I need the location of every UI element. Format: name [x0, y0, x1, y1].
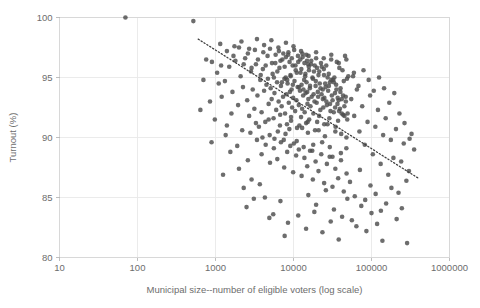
data-point [254, 121, 259, 126]
data-point [255, 37, 260, 42]
data-point [270, 61, 275, 66]
data-point [223, 133, 228, 138]
data-point [316, 128, 321, 133]
data-point [268, 46, 273, 51]
data-point [269, 97, 274, 102]
data-point [354, 224, 359, 229]
data-point [306, 62, 311, 67]
gridlines [60, 18, 450, 258]
data-point [344, 99, 349, 104]
data-point [301, 87, 306, 92]
data-point [312, 69, 317, 74]
data-point [289, 56, 294, 61]
data-point [232, 44, 237, 49]
data-points [123, 15, 416, 245]
data-point [276, 45, 281, 50]
data-point [291, 170, 296, 175]
data-point [401, 141, 406, 146]
data-point [334, 87, 339, 92]
data-point [346, 74, 351, 79]
x-axis-tick-labels: 101001000100001000001000000 [54, 262, 468, 273]
data-point [313, 79, 318, 84]
data-point [257, 124, 262, 129]
data-point [269, 38, 274, 43]
data-point [379, 208, 384, 213]
data-point [231, 54, 236, 59]
data-point [317, 81, 322, 86]
data-point [365, 120, 370, 125]
data-point [219, 94, 224, 99]
data-point [311, 177, 316, 182]
data-point [254, 62, 259, 67]
data-point [342, 114, 347, 119]
data-point [368, 93, 373, 98]
y-axis-tick-labels: 80859095100 [37, 12, 53, 263]
data-point [235, 144, 240, 149]
data-point [218, 42, 223, 47]
data-point [215, 70, 220, 75]
data-point [247, 46, 252, 51]
y-tick-label: 80 [42, 252, 53, 263]
data-point [282, 234, 287, 239]
data-point [394, 217, 399, 222]
data-point [376, 108, 381, 113]
data-point [308, 104, 313, 109]
data-point [289, 87, 294, 92]
data-point [256, 57, 261, 62]
data-point [301, 145, 306, 150]
data-point [363, 198, 368, 203]
data-point [409, 132, 414, 137]
data-point [280, 80, 285, 85]
data-point [290, 105, 295, 110]
data-point [274, 108, 279, 113]
data-point [375, 222, 380, 227]
data-point [294, 153, 299, 158]
data-point [360, 104, 365, 109]
data-point [268, 86, 273, 91]
data-point [284, 55, 289, 60]
data-point [284, 40, 289, 45]
data-point [260, 135, 265, 140]
plot-canvas: 101001000100001000001000000 80859095100 … [0, 0, 480, 308]
data-point [306, 54, 311, 59]
data-point [262, 43, 267, 48]
data-point [191, 19, 196, 24]
data-point [286, 220, 291, 225]
data-point [316, 94, 321, 99]
data-point [328, 219, 333, 224]
data-point [241, 62, 246, 67]
data-point [255, 93, 260, 98]
data-point [389, 186, 394, 191]
data-point [278, 123, 283, 128]
data-point [306, 130, 311, 135]
data-point [294, 139, 299, 144]
data-point [305, 90, 310, 95]
data-point [225, 49, 230, 54]
y-axis-title: Turnout (%) [7, 113, 18, 163]
data-point [258, 73, 263, 78]
data-point [249, 66, 254, 71]
data-point [364, 229, 369, 234]
data-point [252, 106, 257, 111]
data-point [339, 151, 344, 156]
data-point [318, 86, 323, 91]
data-point [268, 160, 273, 165]
data-point [308, 84, 313, 89]
data-point [389, 138, 394, 143]
data-point [252, 196, 257, 201]
data-point [344, 171, 349, 176]
data-point [275, 69, 280, 74]
data-point [344, 146, 349, 151]
data-point [394, 127, 399, 132]
data-point [293, 63, 298, 68]
data-point [327, 154, 332, 159]
data-point [402, 121, 407, 126]
data-point [373, 124, 378, 129]
data-point [267, 133, 272, 138]
data-point [285, 150, 290, 155]
data-point [298, 57, 303, 62]
data-point [310, 75, 315, 80]
data-point [331, 110, 336, 115]
data-point [377, 75, 382, 80]
data-point [368, 183, 373, 188]
